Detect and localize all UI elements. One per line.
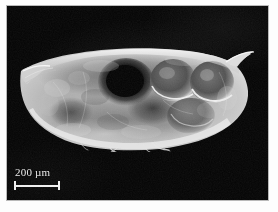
micrograph-plate: 200 µm	[7, 6, 268, 200]
film-grain-overlay	[7, 6, 268, 200]
figure-root: 200 µm	[0, 0, 278, 212]
